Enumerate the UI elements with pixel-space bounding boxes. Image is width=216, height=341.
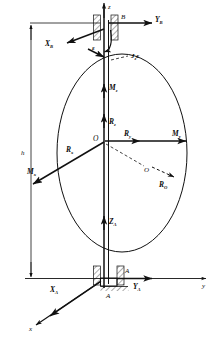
- label-Ry: Ry: [123, 129, 132, 139]
- label-origin-O: O: [93, 134, 99, 143]
- label-Jz-epsilon: Jzε: [130, 52, 139, 61]
- label-x-axis: x: [28, 325, 33, 333]
- vector-epsilon-arc: [105, 30, 112, 52]
- label-bearing-B: B: [121, 13, 126, 21]
- upper-bearing-hatch-right: [111, 15, 118, 40]
- vector-RO: [152, 167, 174, 177]
- label-bearing-A-lower: A: [105, 292, 111, 300]
- label-RO: RO: [158, 180, 168, 190]
- label-Mz: Mz: [108, 83, 118, 93]
- label-mass-centre-O: O: [144, 166, 149, 174]
- leader-Jz-epsilon: [111, 56, 128, 60]
- label-Rx: Rx: [65, 145, 74, 155]
- figure-canvas: z B YB XB ε Jzε Mz Rz O Ry My: [0, 0, 216, 341]
- label-XB: XB: [44, 39, 53, 49]
- label-bearing-A-upper: A: [124, 267, 130, 275]
- free-body-diagram-svg: z B YB XB ε Jzε Mz Rz O Ry My: [0, 0, 216, 341]
- label-ZA: ZA: [108, 217, 117, 227]
- label-Mx: Mx: [26, 167, 37, 177]
- leader-O-to-mass-centre: [106, 144, 144, 166]
- vector-Jz-epsilon: [88, 49, 104, 57]
- label-XA: XA: [49, 285, 58, 295]
- label-h-dimension: h: [21, 149, 25, 157]
- upper-bearing-hatch-left: [94, 15, 101, 40]
- label-My: My: [171, 129, 182, 139]
- label-y-axis: y: [201, 282, 206, 290]
- vector-XA: [50, 282, 100, 316]
- label-YB: YB: [155, 15, 163, 25]
- label-YA: YA: [133, 282, 141, 292]
- label-Rz: Rz: [108, 117, 116, 127]
- label-epsilon: ε: [92, 44, 95, 51]
- label-z-axis: z: [107, 3, 111, 10]
- lower-bearing-hatch-right: [117, 266, 124, 285]
